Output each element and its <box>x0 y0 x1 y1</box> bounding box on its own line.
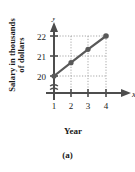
data-point <box>68 60 73 65</box>
data-point <box>51 73 56 78</box>
y-axis-title-line-2: of dollars <box>17 37 26 72</box>
y-axis-arrow <box>50 22 58 32</box>
y-tick-label-20: 20 <box>37 72 47 82</box>
y-axis-variable-label: y <box>51 18 56 22</box>
y-tick-label-21: 21 <box>37 52 46 62</box>
x-tick-label-4: 4 <box>104 101 109 111</box>
x-tick-label-3: 3 <box>86 101 91 111</box>
data-point <box>85 47 90 52</box>
data-point <box>103 33 109 39</box>
data-line-salary <box>54 36 106 76</box>
chart-plot-area: 22 21 20 1 2 3 4 y x <box>28 18 135 128</box>
x-tick-label-1: 1 <box>52 101 57 111</box>
x-axis-variable-label: x <box>131 89 135 99</box>
x-axis-arrow <box>121 89 131 97</box>
figure-container: Salary in thousands of dollars 22 21 20 <box>0 0 135 172</box>
y-tick-label-22: 22 <box>37 32 46 42</box>
x-axis-title: Year <box>28 126 118 136</box>
figure-caption: (a) <box>0 150 135 160</box>
x-tick-label-2: 2 <box>69 101 74 111</box>
